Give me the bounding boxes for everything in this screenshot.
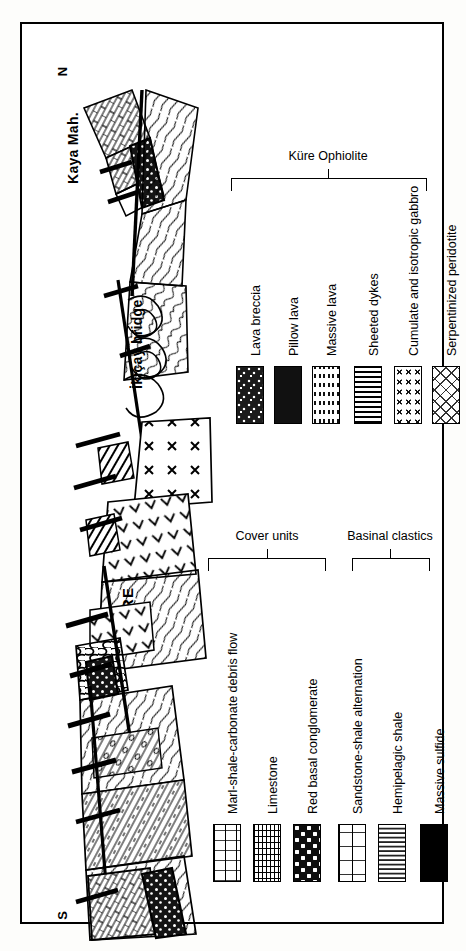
bracket-stem-cover-units <box>267 549 268 558</box>
cross-section-drawing <box>46 50 236 944</box>
legend-swatch-hemipelagic-shale <box>378 824 406 882</box>
legend-group-title-cover-units: Cover units <box>202 529 332 543</box>
bracket-kure-ophiolite <box>231 178 427 191</box>
bracket-stem-basinal-clastics <box>390 549 391 558</box>
legend-swatch-sandstone-shale-alternation <box>338 824 366 882</box>
legend-label-massive-sulfide: Massive sulfide <box>434 729 447 814</box>
legend-label-hemipelagic-shale: Hemipelagic shale <box>392 712 405 814</box>
legend-swatch-massive-sulfide <box>420 824 448 882</box>
legend-swatch-serpentinized-peridotite <box>432 366 460 424</box>
legend-label-limestone: Limestone <box>267 756 280 814</box>
legend-label-red-basal-conglomerate: Red basal conglomerate <box>307 679 320 815</box>
bracket-stem-kure-ophiolite <box>328 169 329 178</box>
bracket-basinal-clastics <box>352 558 430 571</box>
legend-swatch-lava-breccia <box>236 366 264 424</box>
legend-group-title-basinal-clastics: Basinal clastics <box>325 529 455 543</box>
legend-label-cumulate-isotropic-gabbro: Cumulate and isotropic gabbro <box>408 186 421 356</box>
legend-swatch-marl-shale-carbonate-debris-flow <box>213 824 241 882</box>
legend-label-sheeted-dykes: Sheeted dykes <box>368 273 381 356</box>
legend-label-marl-shale-carbonate-debris-flow: Marl-shale-carbonate debris flow <box>227 633 240 814</box>
legend-swatch-massive-lava <box>312 366 340 424</box>
legend-swatch-limestone <box>253 824 281 882</box>
legend-group-title-kure-ophiolite: Küre Ophiolite <box>228 149 428 163</box>
legend-label-massive-lava: Massive lava <box>326 284 339 356</box>
legend-label-pillow-lava: Pillow lava <box>288 297 301 356</box>
bracket-cover-units <box>208 558 326 571</box>
legend-label-lava-breccia: Lava breccia <box>250 285 263 356</box>
legend-swatch-sheeted-dykes <box>354 366 382 424</box>
legend-swatch-red-basal-conglomerate <box>293 824 321 882</box>
legend-swatch-cumulate-isotropic-gabbro <box>394 366 422 424</box>
legend-label-sandstone-shale-alternation: Sandstone-shale alternation <box>352 658 365 814</box>
legend-swatch-pillow-lava <box>274 366 302 424</box>
figure-root: N S Kaya Mah. İkiçay bridge KÜRE <box>0 0 466 951</box>
figure-frame: N S Kaya Mah. İkiçay bridge KÜRE <box>20 22 444 924</box>
legend-label-serpentinized-peridotite: Serpentinized peridotite <box>446 225 459 356</box>
